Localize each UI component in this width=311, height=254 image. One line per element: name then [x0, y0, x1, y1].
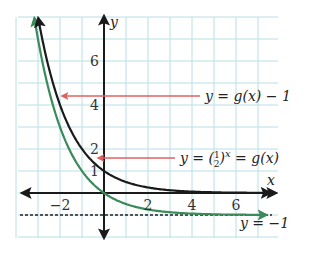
- y-tick-label: 1: [90, 163, 99, 179]
- y-tick-label: 2: [90, 141, 99, 157]
- annotation-shifted-label: y = g(x) − 1: [204, 88, 291, 104]
- shifted-curve: [34, 18, 266, 215]
- tick-labels: −22461246: [50, 53, 241, 213]
- annotations: y = g(x) − 1 y = (12)x = g(x) y = −1 x y: [62, 14, 291, 231]
- graph-canvas: −22461246 y = g(x) − 1 y = (12)x = g(x) …: [0, 0, 311, 254]
- y-tick-label: 4: [90, 97, 99, 113]
- curves: [34, 18, 270, 215]
- x-axis-label: x: [267, 172, 275, 188]
- x-tick-label: 2: [144, 197, 153, 213]
- x-tick-label: 6: [232, 197, 241, 213]
- y-axis-label: y: [109, 14, 119, 30]
- y-tick-label: 6: [90, 53, 99, 69]
- x-tick-label: −2: [50, 197, 71, 213]
- x-tick-label: 4: [188, 197, 197, 213]
- annotation-g-label: y = (12)x = g(x): [179, 148, 279, 169]
- asymptote-label: y = −1: [239, 215, 289, 231]
